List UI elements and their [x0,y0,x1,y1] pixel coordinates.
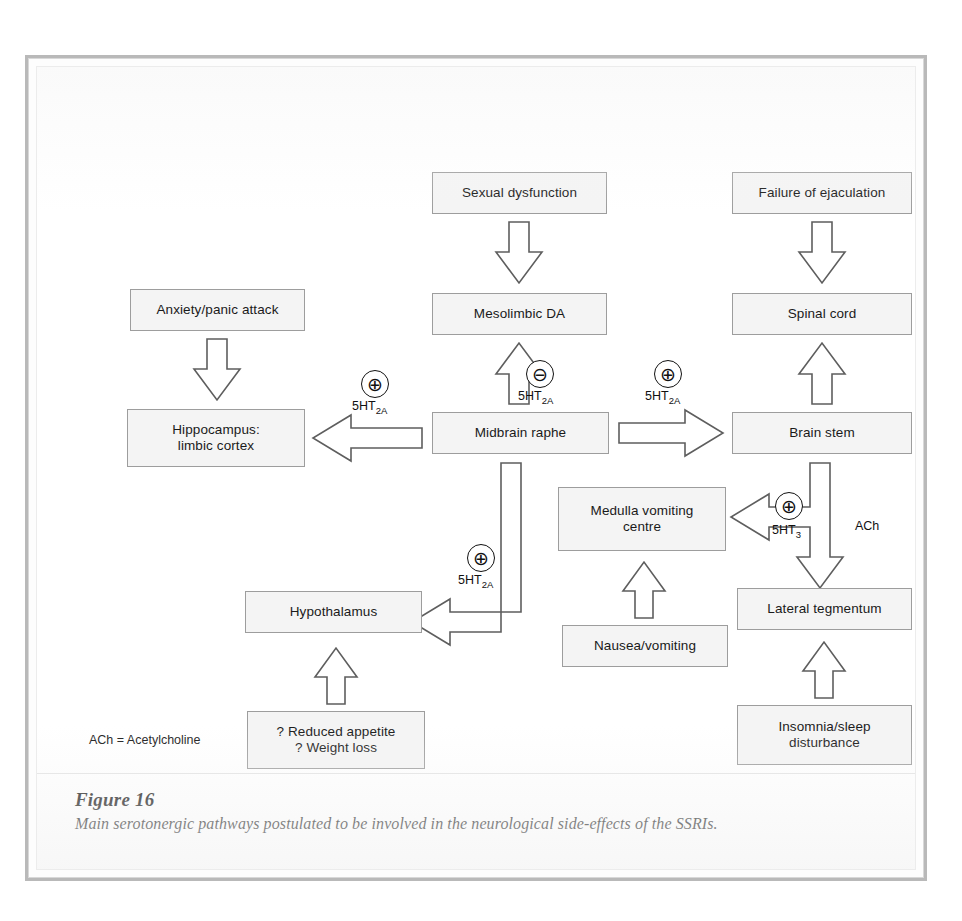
node-label: Insomnia/sleep disturbance [772,719,876,752]
receptor-label-5ht2a-mesolimbic: 5HT2A [518,389,553,406]
transmitter-base: ACh [855,519,879,533]
node-nausea-vomiting[interactable]: Nausea/vomiting [562,625,728,667]
node-midbrain-raphe[interactable]: Midbrain raphe [432,412,609,454]
node-sexual-dysfunction[interactable]: Sexual dysfunction [432,172,607,214]
receptor-label-5ht2a-hypothalamus: 5HT2A [458,573,493,590]
receptor-base: 5HT [772,523,796,537]
arrow-anxiety-to-hippocampus [194,339,240,400]
receptor-subscript: 2A [482,579,494,590]
node-label: Mesolimbic DA [468,306,571,322]
receptor-label-5ht3-medulla: 5HT3 [772,523,801,540]
receptor-base: 5HT [352,399,376,413]
figure-page: Sexual dysfunction Failure of ejaculatio… [0,0,962,921]
node-anxiety-panic-attack[interactable]: Anxiety/panic attack [130,289,305,331]
node-label: Midbrain raphe [469,425,572,441]
arrow-nausea-to-medulla [623,562,665,618]
receptor-subscript: 2A [669,395,681,406]
sign-glyph: ⊕ [660,365,676,384]
node-hypothalamus[interactable]: Hypothalamus [245,591,422,633]
node-hippocampus-limbic-cortex[interactable]: Hippocampus: limbic cortex [127,409,305,467]
node-label: Medulla vomiting centre [585,503,700,536]
node-label: Hypothalamus [284,604,384,620]
flowchart-diagram: Sexual dysfunction Failure of ejaculatio… [37,67,933,767]
arrow-appetite-to-hypothalamus [315,648,357,704]
node-spinal-cord[interactable]: Spinal cord [732,293,912,335]
sign-glyph: ⊕ [473,549,489,568]
figure-caption-text: Main serotonergic pathways postulated to… [75,815,885,833]
node-insomnia-sleep-disturbance[interactable]: Insomnia/sleep disturbance [737,705,912,765]
node-brain-stem[interactable]: Brain stem [732,412,912,454]
receptor-subscript: 3 [796,529,801,540]
node-label: Sexual dysfunction [456,185,583,201]
node-reduced-appetite-weight-loss[interactable]: ? Reduced appetite ? Weight loss [247,711,425,769]
plus-sign-icon: ⊕ [467,544,495,572]
sign-glyph: ⊖ [532,365,548,384]
node-mesolimbic-da[interactable]: Mesolimbic DA [432,293,607,335]
node-label: Nausea/vomiting [588,638,702,654]
sign-glyph: ⊕ [781,497,797,516]
arrow-insomnia-to-lateral-tegmentum [803,642,845,698]
node-label: Failure of ejaculation [753,185,892,201]
arrow-midbrain-raphe-to-hippocampus [313,415,422,461]
node-label: Brain stem [783,425,861,441]
figure-panel-inner: Sexual dysfunction Failure of ejaculatio… [36,66,916,870]
receptor-base: 5HT [518,389,542,403]
caption-divider [37,773,915,774]
plus-sign-icon: ⊕ [775,492,803,520]
plus-sign-icon: ⊕ [654,360,682,388]
node-medulla-vomiting-centre[interactable]: Medulla vomiting centre [558,487,726,551]
receptor-base: 5HT [458,573,482,587]
arrow-sexual-dysfunction-to-mesolimbic-da [496,222,542,283]
node-label: Anxiety/panic attack [150,302,284,318]
receptor-subscript: 2A [542,395,554,406]
receptor-base: 5HT [645,389,669,403]
minus-sign-icon: ⊖ [526,360,554,388]
node-label: Hippocampus: limbic cortex [166,422,266,455]
figure-panel: Sexual dysfunction Failure of ejaculatio… [25,55,927,881]
node-label: Spinal cord [782,306,863,322]
node-failure-of-ejaculation[interactable]: Failure of ejaculation [732,172,912,214]
plus-sign-icon: ⊕ [361,370,389,398]
figure-number: Figure 16 [75,789,885,811]
node-lateral-tegmentum[interactable]: Lateral tegmentum [737,588,912,630]
figure-caption: Figure 16 Main serotonergic pathways pos… [75,789,885,833]
arrow-midbrain-raphe-to-brain-stem [619,410,723,456]
receptor-label-5ht2a-hippocampus: 5HT2A [352,399,387,416]
receptor-label-5ht2a-brainstem: 5HT2A [645,389,680,406]
sign-glyph: ⊕ [367,375,383,394]
arrow-brain-stem-to-spinal-cord [799,343,845,404]
receptor-subscript: 2A [376,405,388,416]
node-label: Lateral tegmentum [761,601,887,617]
transmitter-label-ach: ACh [855,519,879,533]
abbreviation-legend: ACh = Acetylcholine [89,733,201,747]
node-label: ? Reduced appetite ? Weight loss [271,724,402,757]
arrow-failure-ejaculation-to-spinal-cord [799,222,845,283]
